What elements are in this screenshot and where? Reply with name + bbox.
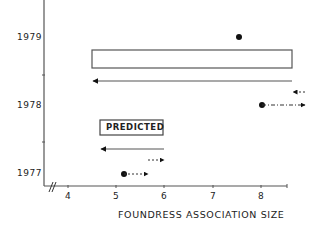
axis-break-icon (49, 182, 56, 192)
y-label-1979: 1979 (17, 32, 42, 42)
x-tick-5: 5 (113, 191, 119, 201)
data-point-1979 (236, 34, 242, 40)
x-tick-4: 4 (65, 191, 71, 201)
x-tick-8: 8 (258, 191, 264, 201)
y-label-1978: 1978 (17, 100, 42, 110)
x-axis-title: FOUNDRESS ASSOCIATION SIZE (118, 209, 284, 220)
y-axis (42, 0, 45, 186)
y-label-1977: 1977 (17, 168, 42, 178)
x-tick-7: 7 (210, 191, 216, 201)
x-tick-6: 6 (161, 191, 167, 201)
predicted-box-1979 (92, 50, 292, 68)
predicted-label: PREDICTED (106, 122, 164, 132)
chart-area: 1979 1978 1977 4 5 6 7 8 FOUNDRESS ASSOC… (0, 0, 330, 228)
x-axis (44, 184, 287, 188)
